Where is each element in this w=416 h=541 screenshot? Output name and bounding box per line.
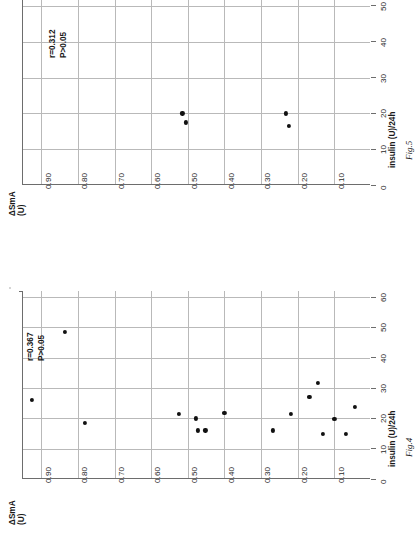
fig4-gridline-insulin <box>23 388 370 389</box>
scan-speck <box>9 287 11 289</box>
fig4-xtick-label: 40 <box>379 354 388 363</box>
fig5-xtick <box>371 5 376 6</box>
fig4-ytick-label: 0.30 <box>263 467 272 483</box>
fig4-data-point <box>271 428 275 432</box>
fig4-xtick <box>371 479 376 480</box>
fig5-xtick <box>371 185 376 186</box>
fig4-xtick-label: 50 <box>379 323 388 332</box>
fig4-data-point <box>196 428 200 432</box>
fig5-ytick-label: 0.40 <box>227 173 236 189</box>
fig4-gridline-dsma <box>78 291 79 478</box>
figure-fig5: r=0.312 P>0.05 ΔSmA(U) insulin (U)/24h F… <box>0 0 416 270</box>
fig4-r-value: r=0.367 <box>26 333 37 361</box>
fig4-gridline-insulin <box>23 297 370 298</box>
fig5-xtick-label: 50 <box>379 2 388 11</box>
fig4-gridline-insulin <box>23 449 370 450</box>
figure-fig4: r=0.367 P>0.05 ΔSmA(U) insulin (U)/24h F… <box>0 271 416 541</box>
fig4-data-point <box>194 416 198 420</box>
fig5-data-point <box>180 111 184 115</box>
fig5-gridline-dsma <box>115 0 116 184</box>
fig5-gridline-insulin <box>23 6 370 7</box>
fig5-gridline-dsma <box>78 0 79 184</box>
fig4-gridline-dsma <box>41 291 42 478</box>
fig4-data-point <box>63 330 67 334</box>
fig5-xtick <box>371 41 376 42</box>
fig4-gridline-insulin <box>23 358 370 359</box>
figure-page: { "page": { "title": "Scatter plots of i… <box>0 0 416 541</box>
fig5-xtick-label: 30 <box>379 73 388 82</box>
fig5-canvas: r=0.312 P>0.05 ΔSmA(U) insulin (U)/24h F… <box>0 0 416 270</box>
fig4-gridline-dsma <box>261 291 262 478</box>
fig4-caption: Fig.4 <box>404 438 414 457</box>
fig4-xtick <box>371 448 376 449</box>
fig4-data-point <box>203 428 207 432</box>
fig5-xtick-label: 0 <box>379 185 388 190</box>
fig5-gridline-dsma <box>261 0 262 184</box>
fig5-gridline-dsma <box>298 0 299 184</box>
fig4-gridline-dsma <box>115 291 116 478</box>
fig4-data-point <box>83 421 87 425</box>
fig5-ytick-label: 0.90 <box>44 173 53 189</box>
fig4-gridline-insulin <box>23 327 370 328</box>
fig5-gridline-insulin <box>23 113 370 114</box>
fig4-ytick-label: 0.20 <box>300 467 309 483</box>
fig4-plot-area <box>22 291 370 479</box>
fig5-ytick-label: 0.10 <box>337 173 346 189</box>
fig5-gridline-dsma <box>224 0 225 184</box>
fig4-data-point <box>344 432 348 436</box>
fig4-data-point <box>222 411 226 415</box>
fig5-xtick <box>371 113 376 114</box>
fig5-y-axis-title: ΔSmA(U) <box>8 191 26 216</box>
fig4-xtick <box>371 388 376 389</box>
fig5-ytick-label: 0.60 <box>153 173 162 189</box>
fig5-caption: Fig.5 <box>404 141 414 160</box>
fig4-y-axis-title: ΔSmA(U) <box>8 500 26 525</box>
fig5-p-value: P>0.05 <box>59 30 70 58</box>
fig5-gridline-insulin <box>23 78 370 79</box>
fig4-xtick <box>371 327 376 328</box>
fig5-x-axis-title: insulin (U)/24h <box>388 112 397 168</box>
fig4-xtick-label: 60 <box>379 293 388 302</box>
fig4-ytick-label: 0.80 <box>80 467 89 483</box>
fig5-r-value: r=0.312 <box>48 30 59 58</box>
fig4-data-point <box>332 417 336 421</box>
fig4-ytick-label: 0.10 <box>337 467 346 483</box>
fig4-data-point <box>177 412 181 416</box>
fig4-gridline-dsma <box>224 291 225 478</box>
fig4-xtick <box>371 357 376 358</box>
fig5-stat-annotation: r=0.312 P>0.05 <box>48 30 69 58</box>
fig5-xtick <box>371 77 376 78</box>
fig4-stat-annotation: r=0.367 P>0.05 <box>26 333 47 361</box>
fig4-gridline-dsma <box>334 291 335 478</box>
fig4-xtick <box>371 297 376 298</box>
fig5-ytick-label: 0.80 <box>80 173 89 189</box>
fig4-data-point <box>352 405 356 409</box>
fig4-data-point <box>30 398 34 402</box>
fig4-data-point <box>289 412 293 416</box>
fig5-gridline-insulin <box>23 149 370 150</box>
fig4-xtick-label: 30 <box>379 384 388 393</box>
fig5-ytick-label: 0.30 <box>263 173 272 189</box>
fig4-gridline-dsma <box>151 291 152 478</box>
fig4-ytick-label: 0.70 <box>117 467 126 483</box>
fig5-gridline-insulin <box>23 42 370 43</box>
fig5-ytick-label: 0.50 <box>190 173 199 189</box>
fig5-xtick <box>371 149 376 150</box>
fig4-gridline-dsma <box>298 291 299 478</box>
fig4-xtick-label: 10 <box>379 444 388 453</box>
fig5-gridline-dsma <box>41 0 42 184</box>
fig4-xtick-label: 0 <box>379 479 388 484</box>
fig4-p-value: P>0.05 <box>37 333 48 361</box>
fig4-ytick-label: 0.60 <box>153 467 162 483</box>
fig4-ytick-label: 0.50 <box>190 467 199 483</box>
fig4-x-axis-title: insulin (U)/24h <box>388 411 397 467</box>
fig4-data-point <box>307 395 311 399</box>
fig5-gridline-dsma <box>188 0 189 184</box>
fig4-data-point <box>316 380 320 384</box>
fig5-data-point <box>284 111 288 115</box>
fig5-gridline-dsma <box>151 0 152 184</box>
fig5-ytick-label: 0.70 <box>117 173 126 189</box>
fig5-gridline-dsma <box>334 0 335 184</box>
fig4-gridline-dsma <box>188 291 189 478</box>
fig4-ytick-label: 0.90 <box>44 467 53 483</box>
